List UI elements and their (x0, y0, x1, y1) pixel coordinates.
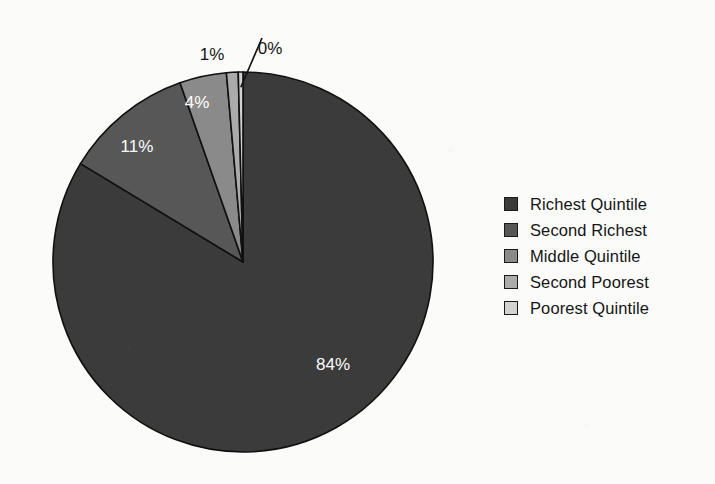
legend-label-middle-quintile: Middle Quintile (530, 247, 641, 266)
pie-slice-group (53, 72, 433, 452)
slice-value-label: 1% (200, 45, 225, 64)
legend-item-middle-quintile[interactable]: Middle Quintile (504, 243, 704, 269)
legend-label-poorest-quintile: Poorest Quintile (530, 299, 649, 318)
legend-swatch-middle-quintile (504, 249, 518, 263)
chart-legend: Richest Quintile Second Richest Middle Q… (504, 191, 704, 321)
slice-value-label: 11% (121, 137, 154, 156)
legend-item-richest-quintile[interactable]: Richest Quintile (504, 191, 704, 217)
legend-label-second-poorest: Second Poorest (530, 273, 649, 292)
legend-item-poorest-quintile[interactable]: Poorest Quintile (504, 295, 704, 321)
legend-swatch-second-richest (504, 223, 518, 237)
legend-item-second-richest[interactable]: Second Richest (504, 217, 704, 243)
pie-chart: 84%11%4%1%0% Richest Quintile Second Ric… (0, 0, 715, 484)
slice-value-label: 0% (258, 39, 283, 58)
slice-value-label: 84% (316, 355, 350, 374)
slice-value-label: 4% (185, 93, 210, 112)
legend-swatch-richest-quintile (504, 197, 518, 211)
legend-label-second-richest: Second Richest (530, 221, 647, 240)
legend-swatch-second-poorest (504, 275, 518, 289)
legend-label-richest-quintile: Richest Quintile (530, 195, 647, 214)
legend-swatch-poorest-quintile (504, 301, 518, 315)
legend-item-second-poorest[interactable]: Second Poorest (504, 269, 704, 295)
